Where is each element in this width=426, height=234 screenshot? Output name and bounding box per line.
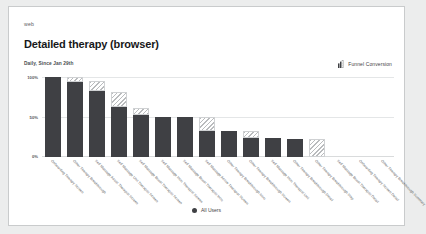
bar-segment-all-users	[243, 138, 259, 157]
x-axis-label: Other Therapy Breakthrough Summary	[380, 159, 426, 206]
bar-segment-all-users	[155, 117, 171, 157]
bar-group	[42, 77, 394, 157]
bar-stack	[353, 77, 369, 157]
x-label-slot: Self Massage Boost Therapist Detail	[328, 159, 350, 205]
x-label-slot: Other Therapy Breakthrough Screen	[240, 159, 262, 205]
bar-slot[interactable]	[240, 77, 262, 157]
x-label-slot: Self Massage Intro Therapist Unit	[262, 159, 284, 205]
bar-stack	[45, 77, 61, 157]
bar-stack	[221, 77, 237, 157]
bar-stack	[111, 77, 127, 157]
bar-slot[interactable]	[174, 77, 196, 157]
bar-stack	[331, 77, 347, 157]
bar-segment-all-users	[221, 131, 237, 157]
bar-slot[interactable]	[284, 77, 306, 157]
bar-segment-all-users	[287, 139, 303, 157]
bar-stack	[133, 77, 149, 157]
bar-segment-dropoff	[199, 117, 215, 131]
card-eyebrow: web	[24, 21, 34, 27]
x-label-slot: Other Therapy Breakthrough Intro	[218, 159, 240, 205]
bar-stack	[265, 77, 281, 157]
bar-slot[interactable]	[262, 77, 284, 157]
bar-stack	[89, 77, 105, 157]
ytick-label-100: 100%	[27, 75, 38, 80]
bar-segment-dropoff	[111, 92, 127, 107]
x-label-slot: Self Massage Unit Therapist Screen	[108, 159, 130, 205]
bar-segment-dropoff	[89, 81, 105, 91]
bar-stack	[375, 77, 391, 157]
x-axis-labels: Onboarding Therapy ScreenOther Therapy B…	[42, 159, 394, 205]
ytick-label-0: 0%	[32, 154, 38, 159]
bar-segment-all-users	[67, 82, 83, 157]
bar-stack	[287, 77, 303, 157]
bar-slot[interactable]	[64, 77, 86, 157]
x-label-slot: Self Massage Boost Therapist Intro	[174, 159, 196, 205]
bar-slot[interactable]	[372, 77, 394, 157]
x-label-slot: Self Massage Active Therapist Screen	[196, 159, 218, 205]
bar-slot[interactable]	[218, 77, 240, 157]
bar-chart-icon	[338, 60, 345, 68]
bar-slot[interactable]	[42, 77, 64, 157]
x-label-slot: Other Therapy Breakthrough Summary	[372, 159, 394, 205]
page-title: Detailed therapy (browser)	[24, 38, 159, 50]
x-label-slot: Onboarding Therapy Screen	[42, 159, 64, 205]
bar-segment-dropoff	[309, 139, 325, 157]
bar-segment-dropoff	[243, 131, 259, 138]
bar-slot[interactable]	[306, 77, 328, 157]
bar-stack	[155, 77, 171, 157]
bar-slot[interactable]	[350, 77, 372, 157]
x-label-slot: Other Therapy Breakthrough Detail	[284, 159, 306, 205]
bar-stack	[243, 77, 259, 157]
bar-slot[interactable]	[108, 77, 130, 157]
x-label-slot: Onboarding Therapy Screen Detail	[350, 159, 372, 205]
x-label-slot: Self Massage Assist Therapist Screen	[86, 159, 108, 205]
bar-segment-all-users	[265, 138, 281, 157]
bar-segment-all-users	[45, 77, 61, 157]
ytick-label-50: 50%	[30, 115, 38, 120]
chart-plot-area: 100% 50% 0%	[42, 77, 394, 157]
bar-slot[interactable]	[196, 77, 218, 157]
bar-segment-all-users	[133, 115, 149, 157]
x-label-slot: Self Massage Boost Therapist Screen	[130, 159, 152, 205]
bar-slot[interactable]	[328, 77, 350, 157]
bar-slot[interactable]	[152, 77, 174, 157]
bar-segment-all-users	[111, 107, 127, 157]
bar-stack	[177, 77, 193, 157]
chart-legend: All Users	[9, 207, 404, 213]
x-label-slot: Self Massage Intro Therapist Screen	[152, 159, 174, 205]
bar-stack	[309, 77, 325, 157]
bar-segment-all-users	[89, 91, 105, 157]
chart-card: web Detailed therapy (browser) Daily, Si…	[8, 6, 405, 226]
x-label-slot: Other Therapy Breakthrough	[64, 159, 86, 205]
legend-label-all-users: All Users	[201, 207, 221, 213]
bar-segment-all-users	[177, 117, 193, 157]
bar-stack	[199, 77, 215, 157]
funnel-conversion-toggle[interactable]: Funnel Conversion	[338, 60, 392, 68]
funnel-conversion-label: Funnel Conversion	[348, 61, 392, 67]
bar-stack	[67, 77, 83, 157]
bar-segment-all-users	[199, 131, 215, 157]
bar-slot[interactable]	[130, 77, 152, 157]
chart-subtitle: Daily, Since Jan 29th	[24, 61, 73, 66]
x-label-slot: Other Therapy Breakthrough Step	[306, 159, 328, 205]
legend-swatch-all-users	[192, 208, 197, 213]
bar-slot[interactable]	[86, 77, 108, 157]
